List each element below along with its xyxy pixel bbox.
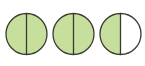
fraction-circles-svg	[0, 0, 145, 66]
right-half	[27, 14, 47, 55]
fraction-circles-figure: Fraction circles: 2 and 1/2 halves shade…	[0, 0, 145, 66]
left-half	[53, 14, 73, 55]
fraction-circle-1	[6, 14, 47, 55]
left-half	[100, 14, 120, 55]
fraction-circle-3	[100, 14, 141, 55]
left-half	[6, 14, 26, 55]
fraction-circle-2	[53, 14, 94, 55]
right-half	[74, 14, 94, 55]
right-half	[121, 14, 141, 55]
